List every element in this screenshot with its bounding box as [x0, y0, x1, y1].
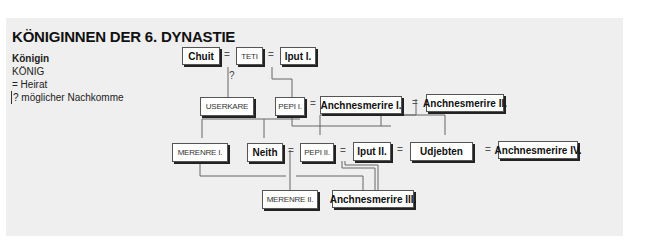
node-anchnesmerire-2: Anchnesmerire II. [426, 94, 504, 112]
node-teti: TETI [236, 47, 263, 65]
node-userkare: USERKARE [200, 97, 254, 116]
marriage-symbol: = [310, 98, 316, 109]
node-pepi-1: PEPI I. [275, 97, 305, 116]
marriage-symbol: = [412, 97, 418, 108]
marriage-symbol: = [397, 144, 403, 155]
node-udjebten: Udjebten [410, 142, 473, 161]
node-pepi-2: PEPI II. [300, 143, 334, 162]
connector-lines [0, 0, 647, 246]
node-anchnesmerire-4: Anchnesmerire IV. [498, 141, 578, 159]
node-iput-2: Iput II. [353, 142, 391, 161]
node-merenre-2: MERENRE II. [262, 190, 318, 209]
possible-descendant-mark: ? [229, 70, 235, 81]
node-iput-1: Iput I. [280, 47, 316, 65]
marriage-symbol: = [288, 145, 294, 156]
node-chuit: Chuit [182, 47, 220, 65]
node-neith: Neith [247, 143, 283, 162]
marriage-symbol: = [224, 49, 230, 60]
marriage-symbol: = [268, 49, 274, 60]
marriage-symbol: = [485, 144, 491, 155]
node-anchnesmerire-3: Anchnesmerire III. [332, 190, 414, 208]
node-merenre-1: MERENRE I. [172, 143, 228, 162]
node-anchnesmerire-1: Anchnesmerire I. [320, 96, 402, 114]
marriage-symbol: = [340, 145, 346, 156]
